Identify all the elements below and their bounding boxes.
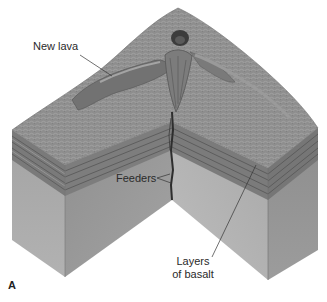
panel-letter: A bbox=[8, 279, 16, 291]
label-layers-of-basalt-line1: Layers bbox=[172, 255, 214, 268]
label-feeders: Feeders bbox=[116, 172, 156, 185]
fissure-eruption-diagram: New lava Feeders Layers of basalt A bbox=[0, 0, 327, 302]
label-layers-of-basalt-line2: of basalt bbox=[168, 268, 218, 281]
label-new-lava: New lava bbox=[33, 40, 78, 53]
